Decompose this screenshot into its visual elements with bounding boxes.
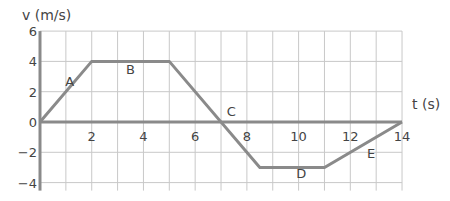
- x-tick-label: 4: [139, 129, 147, 144]
- grid-lines: [40, 31, 402, 191]
- x-tick-label: 12: [342, 129, 359, 144]
- x-axis-label: t (s): [412, 96, 440, 112]
- y-tick-label: −4: [18, 176, 37, 191]
- segment-label-a: A: [65, 74, 74, 89]
- y-tick-label: 6: [29, 24, 37, 39]
- y-axis-label: v (m/s): [22, 7, 71, 23]
- tick-labels: 24681012146420−2−4: [18, 24, 410, 191]
- x-tick-label: 10: [290, 129, 307, 144]
- x-tick-label: 2: [88, 129, 96, 144]
- y-tick-label: −2: [18, 145, 37, 160]
- x-tick-label: 14: [394, 129, 411, 144]
- y-tick-label: 2: [29, 85, 37, 100]
- x-tick-label: 6: [191, 129, 199, 144]
- y-tick-label: 0: [29, 115, 37, 130]
- segment-label-e: E: [367, 146, 375, 161]
- velocity-time-chart: 24681012146420−2−4 ABCDE v (m/s) t (s): [0, 0, 450, 201]
- segment-label-c: C: [227, 104, 236, 119]
- segment-label-d: D: [296, 166, 306, 181]
- x-tick-label: 8: [243, 129, 251, 144]
- segment-label-b: B: [126, 62, 135, 77]
- y-tick-label: 4: [29, 54, 37, 69]
